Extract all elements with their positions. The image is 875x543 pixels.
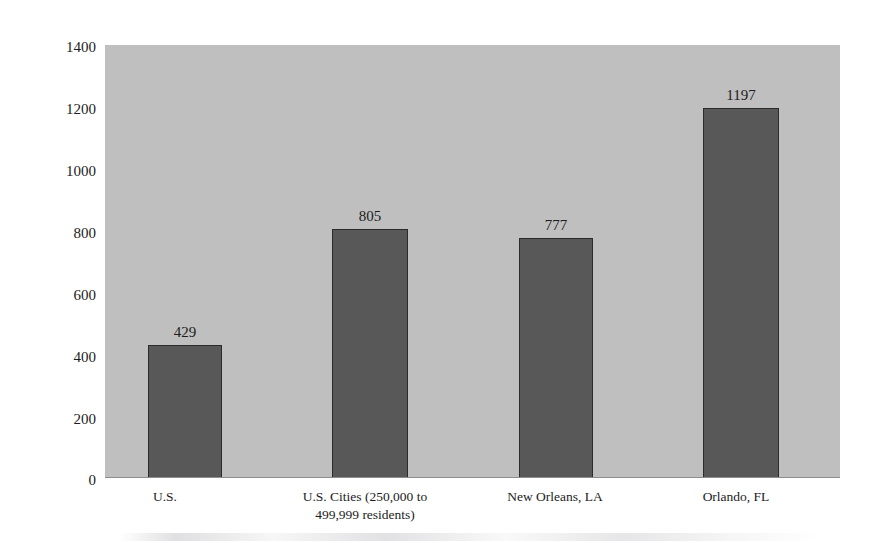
- y-tick-0: 0: [36, 473, 96, 488]
- y-tick-1000: 1000: [36, 164, 96, 179]
- y-tick-1200: 1200: [36, 102, 96, 117]
- category-label-us-cities-line-1: U.S. Cities (250,000 to: [265, 488, 465, 506]
- bar-new-orleans[interactable]: [519, 238, 593, 478]
- bar-us-cities[interactable]: [332, 229, 408, 478]
- scan-artifact: [120, 533, 820, 541]
- plot-area: [105, 45, 840, 478]
- bar-chart-figure: Rate (per 100,000) 1400 1200 1000 800 60…: [0, 0, 875, 543]
- category-label-new-orleans-line-1: New Orleans, LA: [480, 488, 630, 506]
- y-axis-title: Rate (per 100,000): [0, 0, 36, 117]
- bar-value-us-cities: 805: [315, 209, 425, 224]
- bar-value-us: 429: [130, 325, 240, 340]
- bar-us[interactable]: [148, 345, 222, 478]
- category-label-us-cities-line-2: 499,999 residents): [265, 506, 465, 524]
- category-label-orlando-line-1: Orlando, FL: [668, 488, 804, 506]
- category-label-new-orleans: New Orleans, LA: [480, 488, 630, 506]
- bar-value-orlando: 1197: [686, 88, 796, 103]
- y-tick-1400: 1400: [36, 40, 96, 55]
- category-label-us: U.S.: [110, 488, 220, 506]
- bar-value-new-orleans: 777: [501, 218, 611, 233]
- bar-orlando[interactable]: [703, 108, 779, 478]
- y-tick-200: 200: [36, 412, 96, 427]
- category-label-us-line-1: U.S.: [110, 488, 220, 506]
- y-tick-800: 800: [36, 226, 96, 241]
- category-label-orlando: Orlando, FL: [668, 488, 804, 506]
- y-tick-600: 600: [36, 288, 96, 303]
- y-tick-400: 400: [36, 350, 96, 365]
- category-label-us-cities: U.S. Cities (250,000 to 499,999 resident…: [265, 488, 465, 524]
